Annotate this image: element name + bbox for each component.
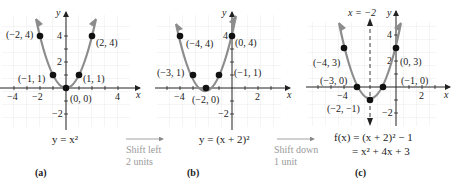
panel-a: −4 −2 4 4 2 −2 x y (−2, 4) (2, 4) (−1, 1…: [0, 7, 141, 179]
equation-b: y = (x + 2)²: [199, 133, 250, 146]
y-axis-label-b: y: [221, 7, 227, 18]
transition-2-line2: 1 unit: [274, 156, 297, 167]
y-axis-label-a: y: [55, 7, 61, 18]
x-tick-a-0: −4: [7, 91, 18, 102]
y-axis-label-c: y: [386, 7, 392, 18]
equation-c-line1: f(x) = (x + 2)² − 1: [334, 131, 413, 144]
y-tick-c-2: −2: [382, 107, 393, 118]
y-tick-b-0: 4: [223, 30, 228, 41]
y-tick-a-1: 2: [57, 56, 62, 67]
point-label-a-3: (1, 1): [83, 73, 105, 85]
point-label-b-0: (−4, 4): [186, 38, 213, 50]
x-tick-a-1: −2: [32, 91, 43, 102]
caption-b: (b): [187, 167, 199, 179]
x-axis-label-c: x: [443, 89, 449, 100]
x-tick-c-0: −4: [337, 90, 348, 101]
transition-2-line1: Shift down: [274, 144, 318, 155]
panel-b: −4 2 4 −2 x y (−4, 4) (0, 4) (−3, 1) (−1…: [155, 7, 292, 179]
point-label-a-1: (2, 4): [96, 37, 118, 49]
panel-c: x = −2 −4 2 4 2 −2 x y (−4, 3) (0, 3) (−…: [306, 7, 450, 179]
y-tick-a-2: −2: [52, 108, 63, 119]
point-label-c-2: (−3, 0): [320, 75, 347, 87]
point-label-c-1: (0, 3): [400, 56, 422, 68]
equation-c-line2: = x² + 4x + 3: [352, 145, 410, 157]
x-axis-label-b: x: [286, 89, 292, 100]
transition-1-line1: Shift left: [126, 144, 161, 155]
y-tick-a-0: 4: [57, 30, 62, 41]
x-axis-label-a: x: [135, 89, 141, 100]
point-label-a-4: (0, 0): [70, 93, 92, 105]
y-tick-b-1: −2: [218, 108, 229, 119]
point-label-b-3: (−1, 1): [234, 67, 261, 79]
point-label-c-3: (−1, 0): [401, 75, 428, 87]
point-label-b-4: (−2, 0): [192, 94, 219, 106]
point-label-b-2: (−3, 1): [157, 67, 184, 79]
point-label-c-4: (−2, −1): [327, 103, 360, 115]
point-label-b-1: (0, 4): [235, 37, 257, 49]
point-label-a-2: (−1, 1): [18, 73, 45, 85]
point-label-c-0: (−4, 3): [313, 57, 340, 69]
y-tick-c-0: 4: [387, 29, 392, 40]
point-label-a-0: (−2, 4): [6, 29, 33, 41]
caption-c: (c): [355, 167, 366, 179]
transition-2: Shift down 1 unit: [274, 139, 318, 167]
transition-1: Shift left 2 units: [126, 139, 163, 167]
equation-a: y = x²: [52, 133, 79, 145]
figure: −4 −2 4 4 2 −2 x y (−2, 4) (2, 4) (−1, 1…: [0, 0, 452, 180]
x-tick-a-2: 4: [115, 91, 120, 102]
transition-1-line2: 2 units: [126, 156, 153, 167]
caption-a: (a): [35, 167, 47, 179]
x-tick-b-1: 2: [255, 91, 260, 102]
x-tick-c-1: 2: [419, 90, 424, 101]
axis-of-symmetry-label: x = −2: [347, 7, 376, 18]
x-tick-b-0: −4: [174, 91, 185, 102]
